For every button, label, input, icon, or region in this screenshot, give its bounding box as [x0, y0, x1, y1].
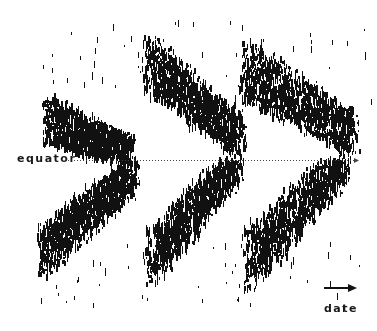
equator-label: equator — [17, 152, 76, 165]
date-arrow-icon — [324, 283, 357, 293]
butterfly-diagram-plot — [0, 0, 377, 331]
date-axis-label: date — [324, 302, 358, 315]
